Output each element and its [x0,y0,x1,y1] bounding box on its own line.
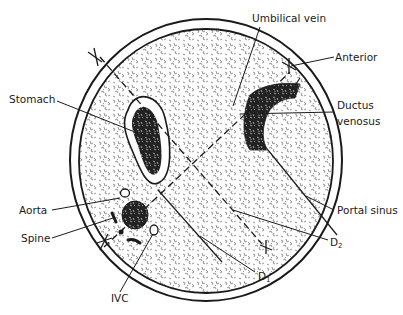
label-anterior: Anterior [335,51,377,63]
spine-dot [119,230,124,235]
label-spine: Spine [21,232,50,244]
label-d1: D1 [258,270,271,286]
label-umbilical-vein: Umbilical vein [252,12,326,24]
label-d2-main: D [330,236,338,248]
label-d1-subscript: 1 [266,276,270,284]
label-ductus-venosus-line1: Ductus [337,99,374,111]
spine-body-shape [122,201,148,229]
label-stomach: Stomach [9,93,55,105]
ivc-shape [150,225,158,235]
label-ivc: IVC [111,292,129,304]
body-outline-inner [79,29,333,293]
label-aorta: Aorta [19,204,47,216]
label-d1-main: D [258,270,266,282]
label-ductus-venosus-line2: venosus [337,115,380,127]
label-d2: D2 [330,236,343,252]
aorta-shape [121,189,130,197]
caliper-x-upper-left-icon [88,48,102,66]
fetal-abdomen-diagram [0,0,403,315]
label-d2-subscript: 2 [338,242,342,250]
label-portal-sinus: Portal sinus [337,204,398,216]
